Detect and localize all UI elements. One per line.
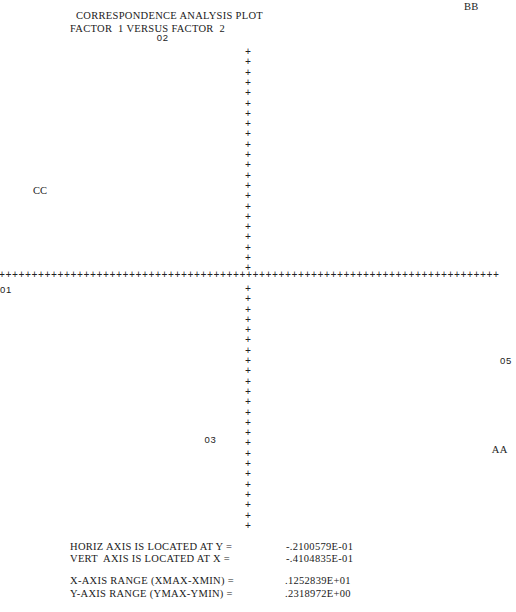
vert-axis-value: -.4104835E-01 (286, 553, 353, 565)
vertical-axis-mark: + (244, 100, 252, 110)
point-label-03: 03 (205, 434, 217, 445)
vertical-axis-mark: + (244, 439, 252, 449)
horiz-axis-value: -.2100579E-01 (286, 541, 353, 553)
vertical-axis-mark: + (244, 336, 252, 346)
horiz-axis-label: HORIZ AXIS IS LOCATED AT Y = (70, 541, 232, 553)
x-range-value: .1252839E+01 (285, 575, 351, 587)
vertical-axis-mark: + (244, 89, 252, 99)
x-range-label: X-AXIS RANGE (XMAX-XMIN) = (70, 575, 234, 587)
vertical-axis-mark: + (244, 398, 252, 408)
y-range-label: Y-AXIS RANGE (YMAX-YMIN) = (70, 588, 233, 600)
vertical-axis-mark: + (244, 470, 252, 480)
point-label-01: 01 (0, 284, 12, 295)
horizontal-axis-mark: + (492, 271, 500, 281)
vertical-axis-mark: + (244, 306, 252, 316)
point-label-cc: CC (33, 185, 47, 196)
vertical-axis-mark: + (244, 409, 252, 419)
vertical-axis-mark: + (244, 203, 252, 213)
vert-axis-label: VERT AXIS IS LOCATED AT X = (70, 553, 230, 565)
point-label-05: 05 (500, 355, 512, 366)
point-label-02: 02 (157, 32, 169, 43)
point-label-aa: AA (492, 444, 508, 455)
vertical-axis-mark: + (244, 130, 252, 140)
vertical-axis-mark: + (244, 501, 252, 511)
point-label-bb: BB (464, 1, 478, 12)
vertical-axis-mark: + (244, 192, 252, 202)
vertical-axis-mark: + (244, 161, 252, 171)
vertical-axis-mark: + (244, 58, 252, 68)
plot-area: ++++++++++++++++++++++++++++++++++++++++… (0, 0, 516, 612)
vertical-axis-mark: + (244, 512, 252, 522)
y-range-value: .2318972E+00 (285, 588, 351, 600)
vertical-axis-mark: + (244, 233, 252, 243)
vertical-axis-mark: + (244, 522, 252, 532)
vertical-axis-mark: + (244, 295, 252, 305)
vertical-axis-mark: + (244, 367, 252, 377)
